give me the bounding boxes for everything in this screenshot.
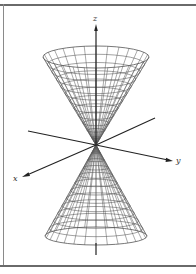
cone-ruling bbox=[96, 59, 148, 145]
y-axis-positive bbox=[96, 145, 168, 160]
cone-ruling bbox=[50, 145, 96, 232]
z-axis-label: z bbox=[92, 14, 98, 23]
double-cone-figure: z y x bbox=[0, 0, 196, 274]
cone-ruling bbox=[73, 47, 96, 145]
x-axis-negative bbox=[96, 118, 155, 145]
z-axis-arrowhead bbox=[94, 24, 98, 31]
cone-ruling bbox=[43, 57, 96, 145]
cone-ruling bbox=[96, 145, 142, 232]
y-axis-arrowhead bbox=[166, 158, 173, 162]
cone-ruling bbox=[96, 145, 146, 234]
cone-ruling bbox=[96, 50, 137, 145]
cone-ruling bbox=[46, 145, 96, 234]
y-axis-negative bbox=[28, 131, 96, 145]
cone-ruling bbox=[96, 47, 119, 145]
cone-ruling bbox=[55, 50, 96, 145]
x-axis-label: x bbox=[13, 174, 18, 183]
x-axis-arrowhead bbox=[22, 172, 30, 177]
y-axis-label: y bbox=[175, 156, 181, 165]
